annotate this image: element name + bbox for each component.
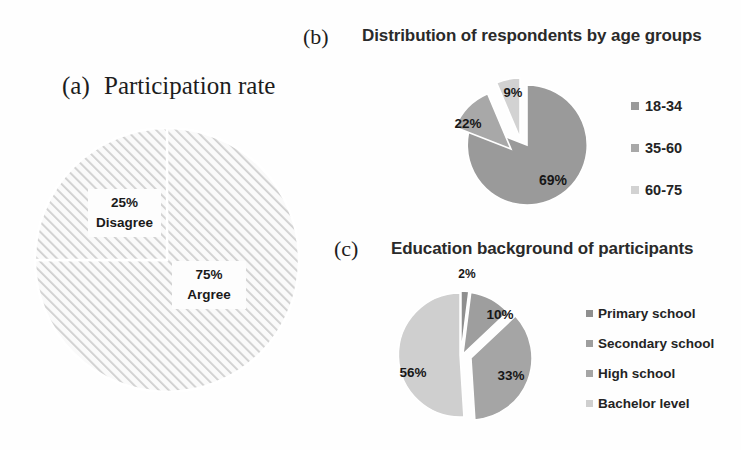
legend-label-18-34: 18-34 [645,98,682,114]
pie-c-value-secondary: 10% [486,307,513,322]
legend-item-60-75[interactable]: 60-75 [631,169,682,211]
pie-chart-age-groups: 69% 22% 9% [415,55,600,240]
legend-swatch-icon-60-75 [631,186,639,194]
legend-item-secondary-school[interactable]: Secondary school [586,328,714,358]
pie-a-label-argree-pct: 75% [195,267,222,282]
legend-swatch-icon-secondary-school [586,340,593,347]
pie-a-svg [34,128,300,392]
pie-c-slice-bachelor [398,293,463,417]
pie-b-value-35-60: 22% [454,116,481,131]
pie-c-value-primary: 2% [458,267,476,281]
legend-swatch-icon-18-34 [631,102,639,110]
panel-a-title: Participation rate [104,72,275,100]
legend-item-18-34[interactable]: 18-34 [631,85,682,127]
pie-a-label-disagree: 25% Disagree [88,189,161,237]
legend-item-bachelor-level[interactable]: Bachelor level [586,388,714,418]
legend-swatch-icon-35-60 [631,144,639,152]
panel-b-letter-label: (b) [303,24,329,50]
legend-label-35-60: 35-60 [645,140,682,156]
pie-a-label-disagree-pct: 25% [111,195,138,210]
pie-a-label-argree-name: Argree [179,285,239,305]
figure-root: (a) Participation rate (a) Participation… [0,0,741,450]
panel-c-title: Education background of participants [391,239,693,259]
legend-swatch-icon-bachelor-level [586,400,593,407]
legend-item-primary-school[interactable]: Primary school [586,298,714,328]
legend-label-60-75: 60-75 [645,182,682,198]
legend-education-background: Primary school Secondary school High sch… [586,298,714,418]
pie-chart-education-background: 2% 10% 33% 56% [388,262,563,442]
pie-b-value-18-34: 69% [539,172,568,188]
pie-c-value-high: 33% [497,368,524,383]
legend-age-groups: 18-34 35-60 60-75 [631,85,682,211]
legend-item-high-school[interactable]: High school [586,358,714,388]
pie-chart-participation-rate [34,128,300,392]
legend-swatch-icon-high-school [586,370,593,377]
legend-label-secondary-school: Secondary school [598,336,714,351]
pie-b-svg: 69% 22% 9% [415,55,600,240]
pie-b-value-60-75: 9% [504,85,523,100]
legend-label-bachelor-level: Bachelor level [598,396,690,411]
legend-swatch-icon-primary-school [586,310,593,317]
panel-a-letter-label: (a) [62,72,90,100]
pie-c-svg: 2% 10% 33% 56% [388,262,563,442]
pie-a-label-argree: 75% Argree [172,261,246,309]
legend-label-primary-school: Primary school [598,306,696,321]
panel-c-letter-label: (c) [334,236,358,262]
legend-label-high-school: High school [598,366,675,381]
legend-item-35-60[interactable]: 35-60 [631,127,682,169]
panel-b-title: Distribution of respondents by age group… [362,26,702,46]
pie-c-value-bachelor: 56% [399,365,426,380]
pie-a-label-disagree-name: Disagree [95,213,154,233]
